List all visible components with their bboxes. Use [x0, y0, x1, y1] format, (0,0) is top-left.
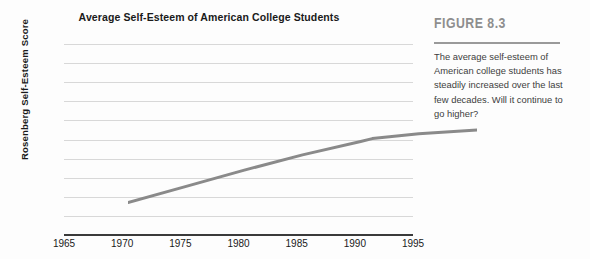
x-tick-1995: 1995	[391, 238, 435, 249]
figure-panel: FIGURE 8.3 The average self-esteem of Am…	[434, 0, 582, 259]
x-tick-1965: 1965	[42, 238, 86, 249]
chart-title: Average Self-Esteem of American College …	[0, 11, 418, 23]
figure-page: Average Self-Esteem of American College …	[0, 0, 590, 259]
x-tick-1970: 1970	[100, 238, 144, 249]
figure-divider-rule	[434, 42, 560, 44]
x-tick-1975: 1975	[158, 238, 202, 249]
x-tick-1985: 1985	[275, 238, 319, 249]
figure-caption-text: The average self-esteem of American coll…	[434, 50, 564, 121]
plot-area	[64, 44, 413, 235]
gridline	[64, 82, 413, 83]
gridline	[64, 63, 413, 64]
x-axis-baseline	[64, 234, 413, 236]
y-axis-label: Rosenberg Self-Esteem Score	[19, 10, 30, 170]
x-tick-1980: 1980	[217, 238, 261, 249]
x-tick-1990: 1990	[333, 238, 377, 249]
figure-number-label: FIGURE 8.3	[434, 14, 506, 31]
gridline	[64, 44, 413, 45]
chart-panel: Average Self-Esteem of American College …	[0, 0, 418, 259]
